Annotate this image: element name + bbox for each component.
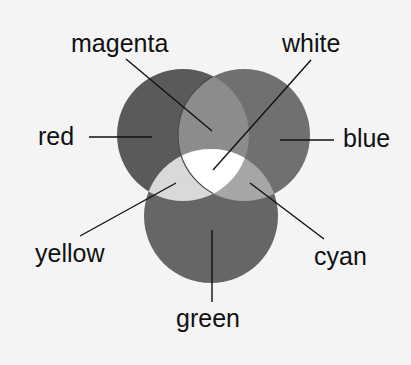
label-white: white <box>282 31 340 56</box>
label-yellow: yellow <box>35 241 104 266</box>
label-green: green <box>176 306 240 331</box>
label-red: red <box>38 124 74 149</box>
label-blue: blue <box>343 126 390 151</box>
label-cyan: cyan <box>314 244 367 269</box>
label-magenta: magenta <box>71 31 168 56</box>
